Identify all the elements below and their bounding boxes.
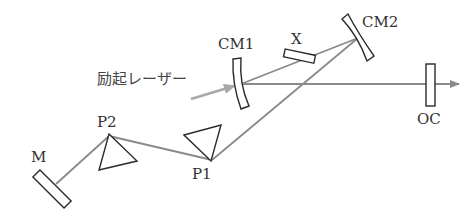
label-cm1: CM1 (218, 35, 254, 53)
beam-m-to-p2 (56, 136, 109, 184)
label-m: M (31, 148, 46, 166)
label-p1: P1 (192, 165, 212, 183)
label-oc: OC (417, 110, 441, 128)
label-cm2: CM2 (362, 13, 398, 31)
label-pump-laser: 励起レーザー (97, 70, 187, 88)
laser-cavity-diagram: CM1 X CM2 OC P1 P2 M 励起レーザー (0, 0, 473, 221)
output-coupler (426, 64, 435, 106)
label-p2: P2 (97, 113, 117, 131)
label-x: X (291, 30, 302, 48)
pump-arrow (191, 86, 234, 99)
